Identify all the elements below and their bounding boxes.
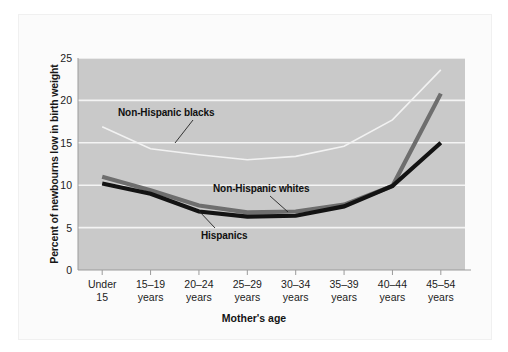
y-tick-label: 25 [50,53,72,63]
chart-figure: Percent of newbourns low in birth weight… [0,0,508,352]
series-label-hispanics: Hispanics [201,230,247,241]
plot-area [78,58,465,270]
y-tick-label: 0 [50,265,72,275]
x-axis-title: Mother's age [0,312,508,324]
y-axis-title: Percent of newbourns low in birth weight [46,58,62,270]
series-canvas [78,58,465,270]
y-tick-label: 5 [50,223,72,233]
series-label-non-hispanic-blacks: Non-Hispanic blacks [118,107,214,118]
y-tick-label: 15 [50,138,72,148]
y-tick-label: 10 [50,180,72,190]
x-tick-label-line: years [412,291,470,304]
x-tick-label: 45–54years [412,278,470,303]
y-tick-label: 20 [50,95,72,105]
series-label-non-hispanic-whites: Non-Hispanic whites [213,183,309,194]
x-tick-label-line: 45–54 [412,278,470,291]
